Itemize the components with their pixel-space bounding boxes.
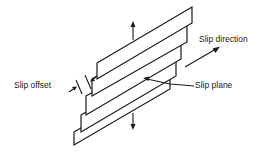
slip-diagram — [0, 0, 272, 156]
offset-tick-right — [85, 75, 91, 89]
slip-direction-head-icon — [213, 47, 221, 54]
slip-offset-label: Slip offset — [14, 81, 51, 90]
arrow-down-head-icon — [131, 124, 136, 130]
arrow-up-head-icon — [131, 21, 136, 27]
slip-direction-label: Slip direction — [199, 35, 248, 44]
slip-direction-arrow — [185, 49, 216, 67]
offset-tick-left — [76, 80, 82, 94]
slip-plane-label: Slip plane — [195, 81, 232, 90]
